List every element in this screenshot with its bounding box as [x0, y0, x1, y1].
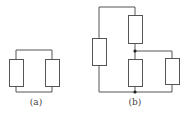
label-a: (a) — [30, 97, 42, 107]
label-b: (b) — [129, 97, 142, 107]
resistor-b-middle-lower — [129, 60, 143, 87]
circuit-a: (a) — [10, 50, 60, 107]
junction-dot-lower — [133, 90, 136, 93]
resistor-b-left — [93, 39, 107, 66]
wire-top-a — [16, 50, 52, 59]
circuit-b: (b) — [93, 7, 180, 107]
wire-junction-right-b — [135, 51, 172, 58]
resistor-a-left — [10, 60, 24, 87]
junction-dot-upper — [133, 49, 136, 52]
resistor-b-right — [166, 59, 180, 85]
resistor-b-top-middle — [129, 16, 143, 44]
resistor-a-right — [46, 60, 60, 87]
circuit-diagram: (a) (b) — [0, 0, 188, 115]
